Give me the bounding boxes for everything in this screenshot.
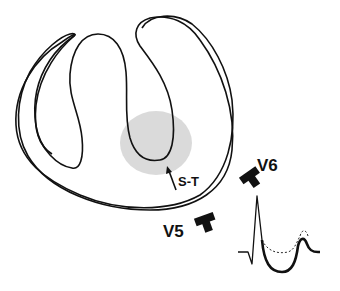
electrode-v5 — [194, 212, 219, 235]
v6-label: V6 — [257, 156, 278, 175]
ecg-qrs — [238, 196, 262, 264]
v5-label: V5 — [163, 222, 184, 241]
heart-diagram: S-T V6 V5 — [0, 0, 340, 291]
ecg-t-wave-dashed — [300, 231, 308, 236]
heart-outline — [18, 17, 232, 210]
st-label: S-T — [178, 174, 199, 189]
ecg-trace — [238, 196, 320, 272]
injury-zone — [120, 111, 192, 175]
ecg-normal-st-dashed — [262, 236, 300, 253]
ecg-st-depression — [262, 239, 320, 272]
